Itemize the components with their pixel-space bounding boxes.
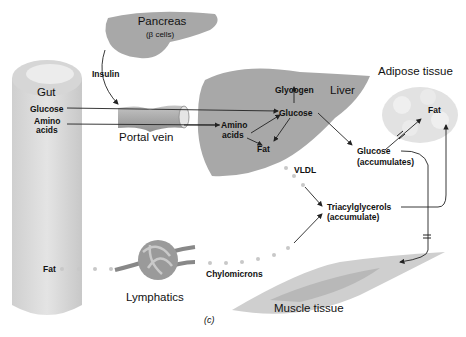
vldl-label: VLDL (294, 165, 316, 175)
liver-glucose-label: Glucose (279, 108, 313, 118)
pancreas-label: Pancreas (138, 15, 187, 27)
muscle-label: Muscle tissue (274, 302, 344, 314)
gut-glucose-label: Glucose (30, 104, 64, 114)
chylomicrons-label: Chylomicrons (206, 269, 263, 279)
panel-label: (c) (204, 315, 215, 325)
blood-glucose-label-2: (accumulates) (357, 157, 414, 167)
gut-amino-label-2: acids (36, 125, 58, 135)
lymph-node-shape (115, 240, 195, 280)
metabolism-diagram: Pancreas (β cells) Gut Insulin Glucose A… (0, 0, 466, 337)
adipose-fat-label: Fat (428, 105, 441, 115)
lymphatics-label: Lymphatics (126, 291, 184, 303)
adipose-shape (382, 87, 458, 143)
pancreas-sublabel: (β cells) (146, 30, 174, 39)
tg-label-1: Triacylglycerols (327, 202, 392, 212)
adipose-label: Adipose tissue (378, 65, 453, 77)
liver-amino-label-2: acids (222, 130, 244, 140)
blood-glucose-label-1: Glucose (357, 146, 391, 156)
liver-amino-label-1: Amino (221, 120, 247, 130)
tg-label-2: (accumulate) (327, 212, 380, 222)
chylomicron-dots (60, 166, 305, 271)
gut-label: Gut (37, 86, 56, 98)
portal-vein-label: Portal vein (119, 131, 173, 143)
gut-fat-label: Fat (43, 264, 56, 274)
liver-fat-label: Fat (257, 144, 270, 154)
insulin-label: Insulin (92, 69, 119, 79)
liver-label: Liver (330, 84, 355, 96)
glycogen-label: Glycogen (275, 85, 314, 95)
gut-tube (12, 60, 82, 315)
